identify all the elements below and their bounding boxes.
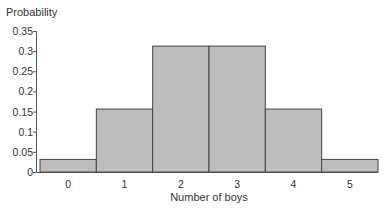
x-tick-label: 2 [178,178,184,190]
y-tick-label: 0.15 [13,106,33,118]
y-tick-label: 0.1 [18,126,33,138]
x-axis-title: Number of boys [40,191,378,203]
bar-0 [40,159,96,172]
x-tick-label: 4 [291,178,297,190]
x-tick-label: 1 [122,178,128,190]
y-tick-label: 0.35 [13,25,33,37]
bar-3 [209,46,265,172]
x-tick-label: 0 [65,178,71,190]
bar-2 [153,46,209,172]
y-tick-label: 0.2 [18,85,33,97]
y-tick-label: 0.05 [13,146,33,158]
y-tick-label: 0.25 [13,65,33,77]
x-tick-label: 3 [234,178,240,190]
bar-1 [96,109,152,172]
y-tick-label: 0.3 [18,45,33,57]
plot-area [0,0,389,211]
bar-5 [322,159,378,172]
x-tick-label: 5 [347,178,353,190]
y-tick-label: 0 [27,166,33,178]
bar-4 [265,109,321,172]
